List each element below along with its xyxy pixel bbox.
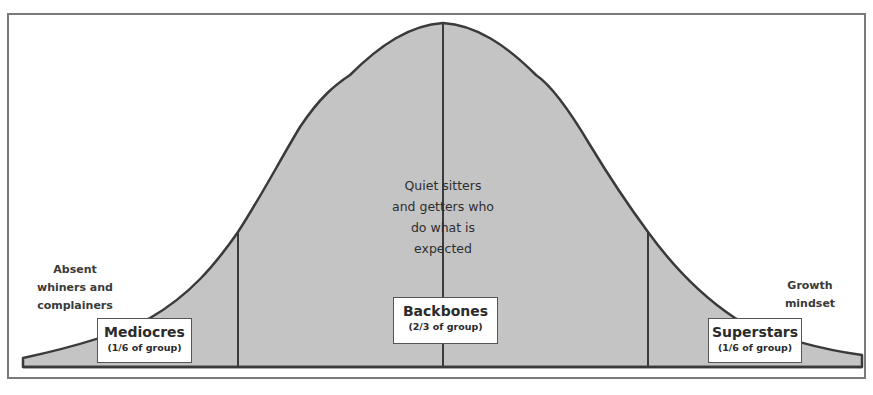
right-description-line: mindset xyxy=(770,295,850,313)
left-description-line: Absent xyxy=(20,261,130,279)
center-description-line: Quiet sitters xyxy=(368,175,518,196)
superstars-label-box: Superstars (1/6 of group) xyxy=(708,318,802,363)
right-description: Growth mindset xyxy=(770,277,850,313)
center-description-line: do what is xyxy=(368,217,518,238)
superstars-share: (1/6 of group) xyxy=(709,341,801,355)
left-description-line: whiners and xyxy=(20,279,130,297)
mediocres-title: Mediocres xyxy=(98,323,191,341)
center-description: Quiet sitters and getters who do what is… xyxy=(368,175,518,259)
center-description-line: and getters who xyxy=(368,196,518,217)
left-description-line: complainers xyxy=(20,297,130,315)
center-description-line: expected xyxy=(368,238,518,259)
superstars-title: Superstars xyxy=(709,323,801,341)
backbones-title: Backbones xyxy=(394,302,497,320)
mediocres-share: (1/6 of group) xyxy=(98,341,191,355)
backbones-share: (2/3 of group) xyxy=(394,320,497,334)
right-description-line: Growth xyxy=(770,277,850,295)
left-description: Absent whiners and complainers xyxy=(20,261,130,315)
mediocres-label-box: Mediocres (1/6 of group) xyxy=(97,318,192,363)
backbones-label-box: Backbones (2/3 of group) xyxy=(393,297,498,344)
